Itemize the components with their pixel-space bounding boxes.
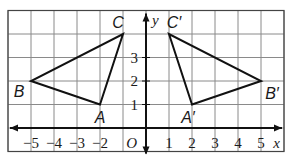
vertex-label: C′ [167, 14, 183, 31]
origin-label: O [126, 135, 137, 151]
x-axis-label: x [272, 135, 280, 151]
x-tick-label: 4 [234, 135, 242, 151]
x-axis-right-arrow-icon [274, 125, 282, 132]
vertex-label: A [94, 109, 106, 126]
y-axis-down-arrow-icon [143, 147, 150, 155]
x-tick-label: −2 [92, 135, 108, 151]
x-tick-label: −3 [69, 135, 85, 151]
x-tick-label: 1 [165, 135, 173, 151]
vertex-label: B′ [265, 85, 280, 102]
y-axis-label: y [150, 12, 159, 28]
y-tick-label: 1 [131, 97, 139, 113]
x-tick-label: 5 [257, 135, 265, 151]
vertex-label: C [112, 14, 124, 31]
x-axis-left-arrow-icon [10, 125, 18, 132]
x-tick-label: 2 [188, 135, 196, 151]
x-tick-label: −4 [46, 135, 62, 151]
vertex-label: B [14, 83, 25, 100]
y-tick-label: 2 [131, 73, 139, 89]
vertex-label: A′ [180, 109, 196, 126]
y-axis-up-arrow-icon [143, 14, 150, 22]
x-tick-label: −5 [23, 135, 39, 151]
axes [10, 14, 282, 155]
y-tick-label: 3 [131, 50, 139, 66]
coordinate-plane: −5−4−3−212345123OxyABCA′B′C′ [0, 0, 286, 161]
x-tick-label: 3 [211, 135, 219, 151]
